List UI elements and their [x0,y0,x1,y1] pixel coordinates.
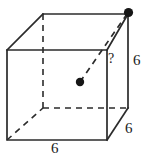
hidden-edge-bottom-left-depth [7,108,43,140]
edge-top-right-depth [107,14,128,50]
center-to-vertex-dashed-segment [80,14,127,82]
edge-top-left-depth [7,14,43,50]
label-bottom-right-depth-edge: 6 [125,121,133,136]
label-unknown-segment: ? [108,52,114,66]
cube-visible-edges [7,14,128,140]
cube-geometry-figure: 6 6 6 ? [0,0,149,158]
label-right-vertical-edge: 6 [133,53,141,68]
center-point-dot [76,78,84,86]
vertex-point-dot [124,8,133,17]
label-bottom-edge: 6 [51,141,59,156]
